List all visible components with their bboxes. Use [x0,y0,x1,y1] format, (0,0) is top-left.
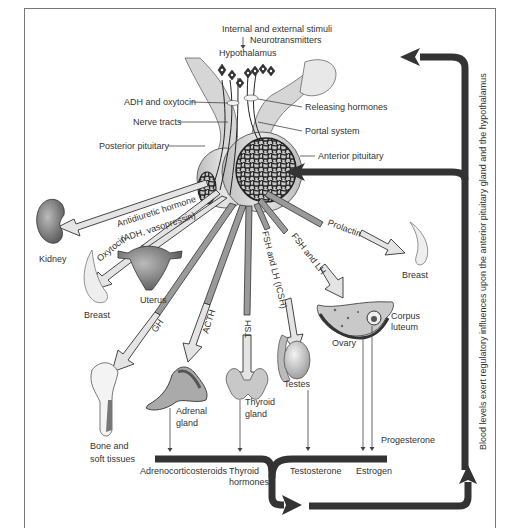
testes-arrowhead-icon [306,447,311,451]
tsh-ray [244,206,252,315]
neurotransmitters-label: Neurotransmitters [250,35,322,45]
fsh-lh-icsh-label: FSH and LH (ICSH) [260,230,289,310]
breast-right-label: Breast [402,270,429,280]
feedback-caption: Blood levels exert regulatory influences… [478,73,488,450]
breast-right-illustration [410,222,428,265]
breast-left-label: Breast [84,310,111,320]
return-path [309,482,468,506]
hypothalamus-label: Hypothalamus [219,48,277,58]
thyroid-label-2: gland [245,409,267,419]
bone-label-1: Bone and [90,441,129,451]
oxytocin-label: Oxytocin [95,233,128,263]
testosterone-label: Testosterone [290,466,342,476]
gh-arrow [112,312,160,372]
fsh-lh-label: FSH and LH [289,231,327,276]
pituitary-feedback-path [300,172,465,180]
bone-label-2: soft tissues [90,454,136,464]
testes-illustration [284,341,310,379]
thyroid-arrowhead-icon [238,448,243,452]
prolactin-arrow [359,230,405,255]
uterus-illustration [118,246,182,290]
adrenal-arrowhead-icon [168,448,173,452]
posterior-pituitary-label: Posterior pituitary [99,141,170,151]
corpus-luteum-center [371,316,377,322]
portal-system-label: Portal system [305,126,360,136]
corpus-label-2: luteum [391,322,418,332]
adrenal-illustration [146,367,207,410]
hypothalamus-feedback-arrowhead-icon [400,48,420,66]
corpus-label-1: Corpus [391,311,421,321]
feedback-vertical-path [420,57,465,470]
adrenal-label-1: Adrenal [176,406,207,416]
estrogen-label: Estrogen [356,466,392,476]
hormone-rays [58,180,405,388]
releasing-hormones-label: Releasing hormones [305,102,388,112]
adh-oxytocin-label: ADH and oxytocin [124,97,196,107]
uterus-label: Uterus [140,295,167,305]
nerve-tracts-label: Nerve tracts [133,117,182,127]
adrenal-label-2: gland [176,418,198,428]
stimuli-label: Internal and external stimuli [222,24,332,34]
progesterone-label: Progesterone [381,435,435,445]
ovary-illustration [317,302,393,336]
thyroid-label-1: Thyroid [245,397,275,407]
bloodstream-arrowhead-icon [282,495,302,515]
tsh-label: TSH [243,320,253,338]
kidney-illustration [37,199,65,243]
estrogen-arrowhead-icon [361,447,366,451]
adrenocorticosteroids-label: Adrenocorticosteroids [140,466,228,476]
thyroid-hormones-label-2: hormones [229,477,270,487]
thyroid-hormones-label-1: Thyroid [229,466,259,476]
progesterone-arrowhead-icon [370,447,375,451]
testes-label: Testes [284,379,311,389]
anterior-pituitary-label: Anterior pituitary [318,151,384,161]
ovary-label: Ovary [332,338,357,348]
bone-illustration [91,363,118,436]
prolactin-label: Prolactin [326,217,362,238]
kidney-label: Kidney [39,254,67,264]
